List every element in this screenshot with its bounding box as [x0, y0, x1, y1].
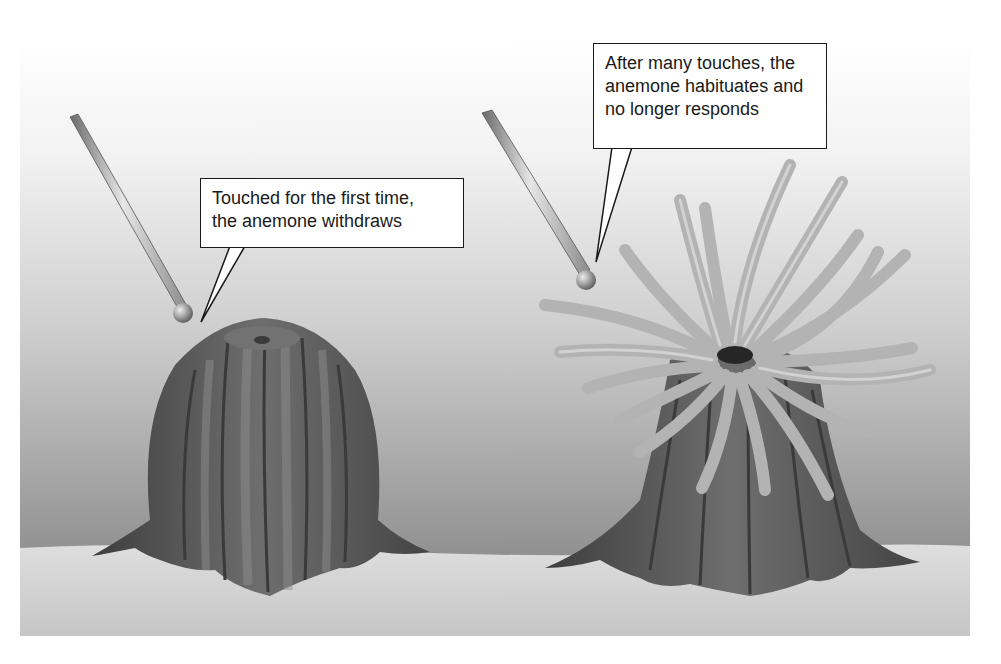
callout-first-touch: Touched for the first time, the anemone … — [200, 178, 464, 248]
anemone-habituation-illustration — [0, 0, 1001, 664]
oral-disc — [717, 346, 753, 364]
callout-habituated: After many touches, the anemone habituat… — [593, 43, 827, 149]
